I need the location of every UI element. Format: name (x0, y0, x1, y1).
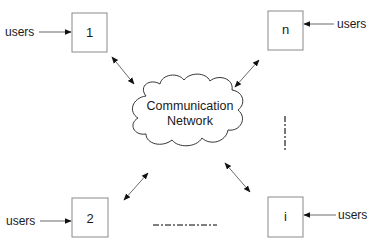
node-2: 2 users (6, 198, 108, 237)
node-1-users-label: users (5, 25, 34, 39)
node-2-users-label: users (6, 214, 35, 228)
connection-n-network (235, 60, 259, 87)
communication-network-cloud: Communication Network (132, 74, 242, 146)
node-1-label: 1 (86, 25, 93, 40)
node-n-users-label: users (337, 17, 366, 31)
node-i-label: i (284, 209, 287, 224)
connection-2-network (124, 173, 148, 200)
node-1: 1 users (5, 13, 107, 52)
node-2-label: 2 (86, 211, 93, 226)
network-diagram: 1 users n users 2 users i users Communic… (0, 0, 376, 247)
node-i: i users (268, 197, 367, 237)
node-n-label: n (282, 22, 289, 37)
connection-i-network (225, 163, 250, 192)
node-n: n users (268, 11, 366, 50)
cloud-label-line1: Communication (147, 99, 234, 113)
cloud-label-line2: Network (167, 114, 214, 128)
node-i-users-label: users (338, 208, 367, 222)
connection-1-network (112, 57, 134, 84)
